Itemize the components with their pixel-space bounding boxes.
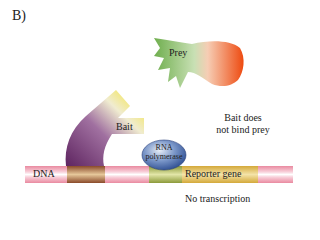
bait-label: Bait	[116, 121, 133, 132]
bait-does-not-bind-note: Bait does not bind prey	[208, 112, 278, 136]
result-label: No transcription	[185, 193, 250, 204]
bait-binding-site	[67, 166, 105, 183]
reporter-gene-label: Reporter gene	[185, 168, 241, 179]
rna-polymerase-label: RNA polymerase	[142, 143, 186, 161]
note-line2: not bind prey	[208, 124, 278, 136]
dna-label: DNA	[33, 168, 55, 179]
rna-polymerase-label-line1: RNA	[142, 143, 186, 152]
prey-protein	[154, 38, 244, 88]
rna-polymerase-label-line2: polymerase	[142, 152, 186, 161]
prey-label: Prey	[169, 47, 187, 58]
note-line1: Bait does	[208, 112, 278, 124]
